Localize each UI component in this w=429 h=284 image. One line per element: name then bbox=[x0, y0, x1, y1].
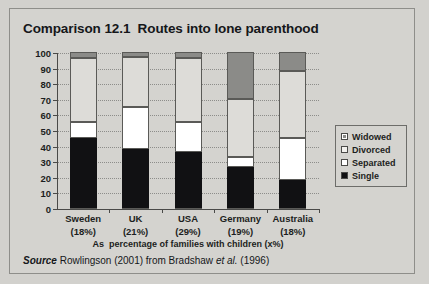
x-axis-line bbox=[57, 209, 320, 210]
segment-divorced bbox=[279, 71, 306, 138]
country-name: USA bbox=[178, 213, 198, 224]
legend-item-separated[interactable]: Separated bbox=[341, 156, 402, 169]
chart-legend: WidowedDivorcedSeparatedSingle bbox=[335, 125, 407, 187]
axis-caption: As percentage of families with children … bbox=[57, 239, 319, 249]
y-tick-mark bbox=[53, 115, 57, 116]
y-tick-mark bbox=[53, 69, 57, 70]
y-tick-label: 80 bbox=[40, 79, 51, 90]
segment-widowed bbox=[122, 52, 149, 57]
legend-swatch-icon bbox=[341, 159, 348, 166]
y-tick-label: 50 bbox=[40, 126, 51, 137]
y-tick-mark bbox=[53, 131, 57, 132]
segment-divorced bbox=[175, 58, 202, 122]
segment-single bbox=[175, 152, 202, 208]
x-tick-label-australia: Australia(18%) bbox=[258, 213, 328, 238]
y-tick-mark bbox=[53, 147, 57, 148]
y-tick-mark bbox=[53, 193, 57, 194]
y-tick-label: 90 bbox=[40, 63, 51, 74]
y-tick-mark bbox=[53, 162, 57, 163]
segment-single bbox=[227, 167, 254, 208]
y-tick-mark bbox=[53, 53, 57, 54]
segment-divorced bbox=[122, 57, 149, 107]
legend-swatch-icon bbox=[341, 172, 348, 179]
y-tick-label: 70 bbox=[40, 94, 51, 105]
page-background: Comparison 12.1 Routes into lone parenth… bbox=[0, 0, 429, 284]
plot-wrapper: 0102030405060708090100 Sweden(18%)UK(21%… bbox=[10, 9, 416, 275]
segment-widowed bbox=[279, 52, 306, 71]
country-name: UK bbox=[129, 213, 143, 224]
y-axis-line bbox=[57, 53, 58, 210]
y-tick-label: 40 bbox=[40, 141, 51, 152]
bar-australia[interactable] bbox=[279, 53, 306, 209]
y-tick-label: 100 bbox=[35, 48, 51, 59]
country-name: Australia bbox=[272, 213, 313, 224]
source-year: (1996) bbox=[238, 255, 270, 266]
segment-separated bbox=[175, 122, 202, 152]
y-tick-label: 30 bbox=[40, 157, 51, 168]
y-axis-labels: 0102030405060708090100 bbox=[19, 53, 51, 209]
segment-divorced bbox=[70, 58, 97, 122]
country-percent: (18%) bbox=[258, 226, 328, 239]
y-tick-label: 20 bbox=[40, 172, 51, 183]
segment-separated bbox=[279, 138, 306, 180]
legend-swatch-icon bbox=[341, 146, 348, 153]
segment-separated bbox=[227, 157, 254, 168]
segment-separated bbox=[70, 122, 97, 138]
y-tick-mark bbox=[53, 178, 57, 179]
figure-container: Comparison 12.1 Routes into lone parenth… bbox=[9, 8, 415, 274]
bar-germany[interactable] bbox=[227, 53, 254, 209]
segment-single bbox=[122, 149, 149, 208]
country-name: Sweden bbox=[65, 213, 101, 224]
y-tick-label: 10 bbox=[40, 188, 51, 199]
legend-item-widowed[interactable]: Widowed bbox=[341, 130, 402, 143]
legend-item-single[interactable]: Single bbox=[341, 169, 402, 182]
legend-label: Widowed bbox=[352, 132, 391, 142]
segment-single bbox=[279, 180, 306, 208]
legend-swatch-icon bbox=[341, 133, 348, 140]
source-label: Source bbox=[23, 255, 57, 266]
legend-item-divorced[interactable]: Divorced bbox=[341, 143, 402, 156]
country-name: Germany bbox=[220, 213, 261, 224]
bar-uk[interactable] bbox=[122, 53, 149, 209]
segment-divorced bbox=[227, 99, 254, 157]
legend-label: Separated bbox=[352, 158, 396, 168]
source-etal: et al. bbox=[216, 255, 238, 266]
y-tick-mark bbox=[53, 100, 57, 101]
bar-usa[interactable] bbox=[175, 53, 202, 209]
source-citation: Rowlingson (2001) from Bradshaw bbox=[57, 255, 216, 266]
segment-separated bbox=[122, 107, 149, 149]
segment-widowed bbox=[175, 52, 202, 58]
segment-widowed bbox=[227, 52, 254, 99]
source-note: Source Rowlingson (2001) from Bradshaw e… bbox=[23, 255, 269, 266]
legend-label: Divorced bbox=[352, 145, 391, 155]
y-tick-mark bbox=[53, 209, 57, 210]
y-tick-mark bbox=[53, 84, 57, 85]
segment-widowed bbox=[70, 52, 97, 58]
segment-single bbox=[70, 138, 97, 208]
y-tick-label: 60 bbox=[40, 110, 51, 121]
bar-sweden[interactable] bbox=[70, 53, 97, 209]
legend-label: Single bbox=[352, 171, 379, 181]
